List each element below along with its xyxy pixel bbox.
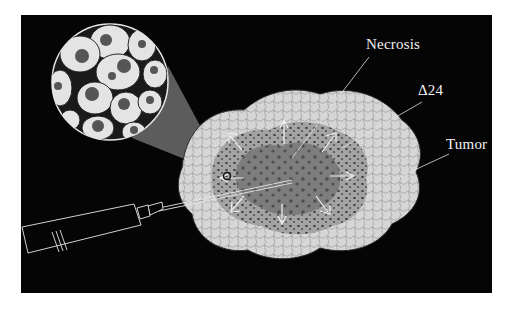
tumor-illustration bbox=[0, 0, 512, 310]
delta24-label: Δ24 bbox=[418, 82, 443, 99]
tumor-label: Tumor bbox=[446, 136, 487, 153]
necrosis-label: Necrosis bbox=[366, 36, 420, 53]
